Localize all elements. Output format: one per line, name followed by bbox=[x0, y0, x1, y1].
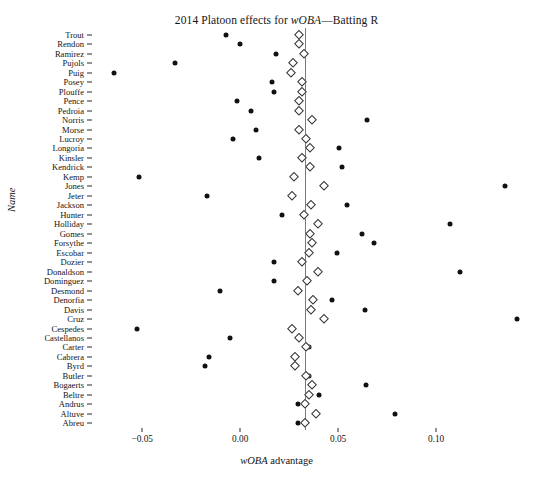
shrunken-estimate-point bbox=[289, 172, 299, 182]
y-axis-tick bbox=[87, 205, 92, 206]
shrunken-estimate-point bbox=[294, 96, 304, 106]
shrunken-estimate-point bbox=[294, 333, 304, 343]
y-axis-tick bbox=[87, 91, 92, 92]
y-axis-tick bbox=[87, 120, 92, 121]
observed-point bbox=[112, 70, 117, 75]
shrunken-estimate-point bbox=[306, 200, 316, 210]
y-axis-tick bbox=[87, 44, 92, 45]
chart-title: 2014 Platoon effects for wOBA—Batting R bbox=[0, 14, 553, 26]
y-axis-tick bbox=[87, 157, 92, 158]
observed-point bbox=[363, 307, 368, 312]
x-axis-tick-label: 0.05 bbox=[330, 434, 346, 444]
y-axis-tick bbox=[87, 337, 92, 338]
shrunken-estimate-point bbox=[300, 418, 310, 428]
shrunken-estimate-point bbox=[294, 105, 304, 115]
observed-point bbox=[272, 279, 277, 284]
observed-point bbox=[207, 354, 212, 359]
observed-point bbox=[280, 212, 285, 217]
shrunken-estimate-point bbox=[319, 181, 329, 191]
observed-point bbox=[448, 222, 453, 227]
y-axis-tick bbox=[87, 347, 92, 348]
observed-point bbox=[238, 42, 243, 47]
x-axis-title: wOBA advantage bbox=[0, 455, 553, 466]
y-axis-tick bbox=[87, 413, 92, 414]
observed-point bbox=[270, 80, 275, 85]
shrunken-estimate-point bbox=[299, 210, 309, 220]
y-axis-tick bbox=[87, 72, 92, 73]
observed-point bbox=[257, 155, 262, 160]
observed-point bbox=[330, 298, 335, 303]
y-axis-tick bbox=[87, 176, 92, 177]
y-axis-tick bbox=[87, 394, 92, 395]
y-axis-tick bbox=[87, 148, 92, 149]
y-axis-tick bbox=[87, 309, 92, 310]
shrunken-estimate-point bbox=[305, 162, 315, 172]
y-axis-tick bbox=[87, 319, 92, 320]
observed-point bbox=[515, 317, 520, 322]
x-axis-tick bbox=[338, 428, 339, 432]
x-axis-tick-label: 0.00 bbox=[232, 434, 248, 444]
observed-point bbox=[393, 411, 398, 416]
y-axis-tick bbox=[87, 252, 92, 253]
observed-point bbox=[372, 241, 377, 246]
shrunken-estimate-point bbox=[287, 191, 297, 201]
shrunken-estimate-point bbox=[305, 143, 315, 153]
y-axis-tick bbox=[87, 34, 92, 35]
observed-point bbox=[135, 326, 140, 331]
observed-point bbox=[205, 193, 210, 198]
shrunken-estimate-point bbox=[294, 39, 304, 49]
observed-point bbox=[503, 184, 508, 189]
y-axis-tick bbox=[87, 385, 92, 386]
shrunken-estimate-point bbox=[306, 304, 316, 314]
y-axis-tick bbox=[87, 110, 92, 111]
observed-point bbox=[365, 118, 370, 123]
shrunken-estimate-point bbox=[286, 67, 296, 77]
y-axis-tick bbox=[87, 82, 92, 83]
observed-point bbox=[335, 250, 340, 255]
y-axis-tick bbox=[87, 366, 92, 367]
observed-point bbox=[274, 51, 279, 56]
observed-point bbox=[254, 127, 259, 132]
x-axis-tick bbox=[436, 428, 437, 432]
shrunken-estimate-point bbox=[290, 361, 300, 371]
y-axis-tick bbox=[87, 290, 92, 291]
x-axis-tick bbox=[240, 428, 241, 432]
shrunken-estimate-point bbox=[311, 409, 321, 419]
shrunken-estimate-point bbox=[299, 48, 309, 58]
y-axis-tick bbox=[87, 281, 92, 282]
shrunken-estimate-point bbox=[313, 219, 323, 229]
shrunken-estimate-point bbox=[288, 58, 298, 68]
y-axis-tick bbox=[87, 63, 92, 64]
shrunken-estimate-point bbox=[302, 276, 312, 286]
y-axis-tick bbox=[87, 423, 92, 424]
x-axis: −0.050.000.050.10 bbox=[104, 428, 528, 454]
shrunken-estimate-point bbox=[301, 342, 311, 352]
observed-point bbox=[364, 383, 369, 388]
shrunken-estimate-point bbox=[305, 229, 315, 239]
observed-point bbox=[317, 392, 322, 397]
y-axis-tick bbox=[87, 262, 92, 263]
x-axis-tick-label: 0.10 bbox=[428, 434, 444, 444]
y-axis-tick bbox=[87, 167, 92, 168]
x-axis-tick bbox=[142, 428, 143, 432]
y-axis-tick bbox=[87, 224, 92, 225]
y-axis-tick bbox=[87, 233, 92, 234]
observed-point bbox=[228, 335, 233, 340]
shrunken-estimate-point bbox=[307, 115, 317, 125]
observed-point bbox=[249, 108, 254, 113]
y-axis-tick bbox=[87, 214, 92, 215]
observed-point bbox=[224, 32, 229, 37]
observed-point bbox=[231, 136, 236, 141]
shrunken-estimate-point bbox=[287, 323, 297, 333]
observed-point bbox=[203, 364, 208, 369]
y-axis-tick bbox=[87, 404, 92, 405]
observed-point bbox=[218, 288, 223, 293]
observed-point bbox=[235, 99, 240, 104]
shrunken-estimate-point bbox=[308, 295, 318, 305]
y-axis-tick bbox=[87, 195, 92, 196]
observed-point bbox=[360, 231, 365, 236]
shrunken-estimate-point bbox=[294, 124, 304, 134]
observed-point bbox=[272, 89, 277, 94]
y-axis-tick bbox=[87, 243, 92, 244]
shrunken-estimate-point bbox=[313, 266, 323, 276]
